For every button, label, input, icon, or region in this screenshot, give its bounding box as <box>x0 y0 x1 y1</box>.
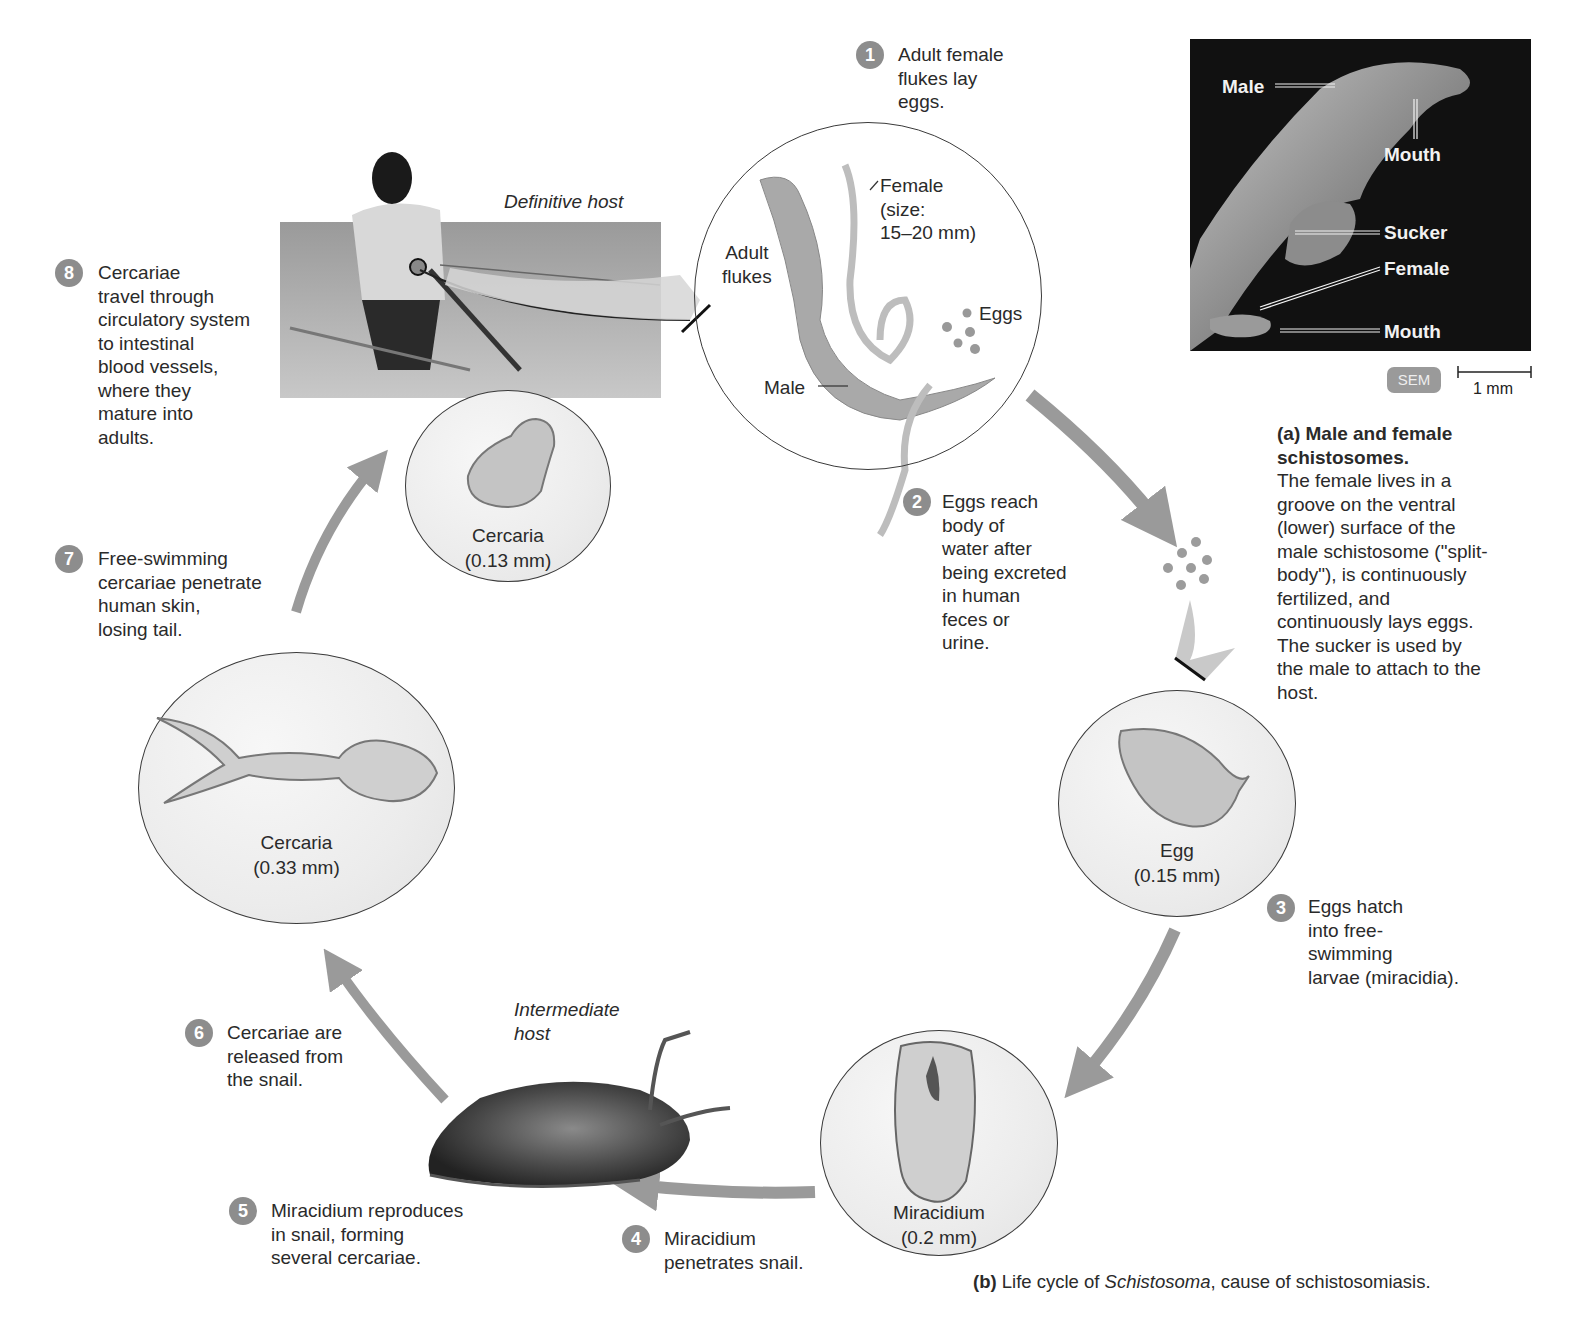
scale-bar-label: 1 mm <box>1473 380 1513 398</box>
panel-a-caption: (a) Male and female schistosomes. The fe… <box>1277 422 1492 704</box>
sem-label-male: Male <box>1222 76 1264 98</box>
panel-b-caption: (b) Life cycle of Schistosoma, cause of … <box>973 1270 1431 1294</box>
step-badge: 4 <box>622 1225 650 1253</box>
cercaria-small-circle: Cercaria (0.13 mm) <box>405 390 611 582</box>
step-text: Eggs hatch into free- swimming larvae (m… <box>1308 895 1459 989</box>
step-text: Cercariae are released from the snail. <box>227 1021 343 1092</box>
step-text: Eggs reach body of water after being exc… <box>942 490 1067 655</box>
step-badge: 6 <box>185 1019 213 1047</box>
definitive-host-photo <box>280 152 710 398</box>
egg-stage-name: Egg <box>1059 839 1295 863</box>
eggs-label: Eggs <box>979 302 1022 326</box>
cercaria-large-stage-name: Cercaria <box>139 831 454 855</box>
male-fluke-label: Male <box>764 376 805 400</box>
snail-photo <box>429 1032 730 1186</box>
sem-label-sucker: Sucker <box>1384 222 1447 244</box>
definitive-host-label: Definitive host <box>504 190 623 214</box>
sem-label-male-mouth: Mouth <box>1384 144 1441 166</box>
panel-b-caption-genus: Schistosoma <box>1105 1271 1211 1292</box>
female-fluke-label: Female (size: 15–20 mm) <box>880 174 976 245</box>
panel-a-caption-body: The female lives in a groove on the vent… <box>1277 469 1492 704</box>
panel-b-caption-text-1: Life cycle of <box>997 1271 1105 1292</box>
scale-bar <box>1458 366 1531 378</box>
sem-badge: SEM <box>1387 367 1441 393</box>
step-badge: 1 <box>856 41 884 69</box>
cercaria-large-stage-size: (0.33 mm) <box>139 856 454 880</box>
panel-a-caption-title: (a) Male and female schistosomes. <box>1277 422 1492 469</box>
step-text: Miracidium penetrates snail. <box>664 1227 803 1274</box>
sem-micrograph: Male Mouth Sucker Female Mouth <box>1190 39 1531 351</box>
step-text: Adult female flukes lay eggs. <box>898 43 1004 114</box>
step-text: Miracidium reproduces in snail, forming … <box>271 1199 463 1270</box>
miracidium-stage-size: (0.2 mm) <box>821 1226 1057 1250</box>
sem-label-female: Female <box>1384 258 1449 280</box>
miracidium-circle: Miracidium (0.2 mm) <box>820 1030 1058 1256</box>
panel-b-caption-text-2: , cause of schistosomiasis. <box>1211 1271 1431 1292</box>
step-badge: 8 <box>55 259 83 287</box>
step-badge: 7 <box>55 545 83 573</box>
sem-label-female-mouth: Mouth <box>1384 321 1441 343</box>
panel-b-caption-prefix: (b) <box>973 1271 997 1292</box>
cercaria-small-stage-size: (0.13 mm) <box>406 549 610 573</box>
egg-stage-size: (0.15 mm) <box>1059 864 1295 888</box>
step-badge: 2 <box>903 488 931 516</box>
step-text: Free-swimming cercariae penetrate human … <box>98 547 262 641</box>
adult-flukes-circle <box>694 122 1042 470</box>
step-badge: 5 <box>229 1197 257 1225</box>
egg-cluster-illustration <box>1163 537 1212 590</box>
cercaria-large-illustration <box>139 653 454 923</box>
intermediate-host-label: Intermediate host <box>514 998 644 1045</box>
adult-flukes-label: Adult flukes <box>722 241 772 288</box>
step-text: Cercariae travel through circulatory sys… <box>98 261 250 449</box>
step-badge: 3 <box>1267 894 1295 922</box>
miracidium-stage-name: Miracidium <box>821 1201 1057 1225</box>
cercaria-large-circle: Cercaria (0.33 mm) <box>138 652 455 924</box>
cercaria-small-stage-name: Cercaria <box>406 524 610 548</box>
egg-circle: Egg (0.15 mm) <box>1058 690 1296 917</box>
